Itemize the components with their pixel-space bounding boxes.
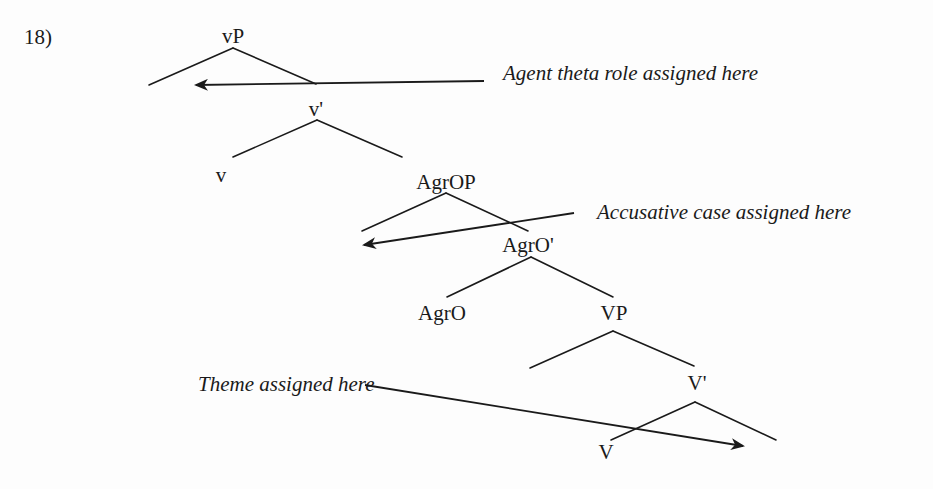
accusative-annotation: Accusative case assigned here — [595, 200, 851, 224]
theme-annotation: Theme assigned here — [198, 372, 375, 396]
agent-arrow — [196, 81, 484, 85]
node-v: v — [216, 163, 227, 187]
node-AgrOP: AgrOP — [416, 170, 476, 194]
node-V-bar: V' — [688, 371, 707, 395]
branch-vP-spec — [149, 48, 233, 85]
branch-AgrObar-AgrO — [447, 257, 531, 297]
example-number: 18) — [24, 25, 52, 49]
node-AgrO-bar: AgrO' — [502, 233, 554, 257]
node-V: V — [598, 440, 613, 464]
theme-arrow — [365, 385, 743, 446]
node-vP: vP — [222, 24, 244, 48]
syntax-tree-diagram: 18) vP Agent theta role assigned here v'… — [0, 0, 933, 489]
branch-VP-spec — [530, 331, 613, 368]
node-AgrO: AgrO — [418, 301, 466, 325]
branch-VP-Vbar — [613, 331, 694, 366]
branch-Vbar-V — [611, 402, 695, 440]
branch-vP-vbar — [233, 48, 316, 84]
node-VP: VP — [601, 301, 628, 325]
branch-AgrOP-spec — [362, 193, 446, 231]
agent-annotation: Agent theta role assigned here — [501, 61, 758, 85]
branch-vbar-v — [233, 120, 317, 157]
branch-Vbar-complement — [695, 402, 776, 440]
node-v-bar: v' — [309, 97, 323, 121]
branch-vbar-AgrOP — [317, 120, 402, 157]
branch-AgrObar-VP — [531, 257, 613, 297]
branch-AgrOP-AgrObar — [446, 193, 528, 231]
